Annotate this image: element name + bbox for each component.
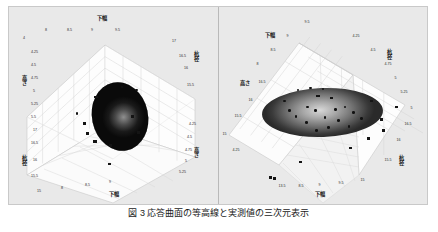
left-tick-lu-3: 5 [33,90,35,94]
right-tick-l-3: 15 [223,133,227,137]
left-tick-bot-2: 8.5 [85,184,90,188]
left-tick-ru-0: 17 [172,40,176,44]
right-top-axis-label: 下幅 [265,33,275,38]
right-circle-marker [305,121,308,124]
panel-left: 下幅 高さ 杭径 杭径 高さ 下幅 4 8 8.5 9 9.5 4.25 4.5… [9,7,219,204]
left-tick-rl-0: 4.25 [189,123,196,127]
right-square-marker [370,100,373,103]
figure-root: 下幅 高さ 杭径 杭径 高さ 下幅 4 8 8.5 9 9.5 4.25 4.5… [0,0,438,232]
left-tick-rl-4: 5.25 [179,171,186,175]
right-square-marker [367,137,370,140]
right-left-axis-label: 高さ [240,81,250,86]
right-square-marker [299,161,302,164]
left-left-axis-label: 高さ [21,75,26,85]
left-tick-bot-3: 9 [109,181,111,185]
left-tick-ru-1: 16.5 [179,55,186,59]
left-bottomright-axis-label: 高さ [193,147,198,157]
right-circle-marker [327,126,330,129]
left-tick-ru-3: 15.5 [187,84,194,88]
right-tick-l-2: 15.5 [235,115,242,119]
right-square-marker [380,118,383,121]
left-tick-top-3: 9 [91,29,93,33]
right-square-marker [330,97,333,100]
right-tick-tr-0: 4.25 [353,35,360,39]
left-tick-top-0: 4 [23,37,25,41]
right-tick-b-2: 9 [319,184,321,188]
right-tick-b-1: 8.5 [299,185,304,189]
right-bottom-axis-label: 下幅 [315,192,325,197]
right-tick-top-3: 8 [257,63,259,67]
right-tick-r-0: 5 [411,107,413,111]
left-tick-bot-1: 8 [61,187,63,191]
figure-frame: 下幅 高さ 杭径 杭径 高さ 下幅 4 8 8.5 9 9.5 4.25 4.5… [8,6,428,205]
left-tick-ll-1: 16.5 [31,142,38,146]
right-circle-marker [315,129,318,132]
left-tick-lu-0: 4.25 [31,51,38,55]
left-tick-ll-3: 15.5 [31,175,38,179]
left-tick-top-2: 8.5 [67,29,72,33]
right-right-axis-label: 杭径 [387,49,392,59]
right-circle-marker [352,111,355,114]
right-square-marker [269,176,272,179]
left-tick-ll-0: 17 [33,129,37,133]
figure-caption: 図 3 応答曲面の等高線と実測値の三次元表示 [0,206,438,219]
right-bottomright-axis-label: 杭径 [399,155,404,165]
right-circle-marker [306,106,309,109]
left-tick-rl-2: 4.75 [185,149,192,153]
right-tick-top-0: 9.5 [305,21,310,25]
right-square-marker [395,106,398,109]
right-circle-marker [283,100,286,103]
left-tick-bot-0: 15 [37,190,41,194]
left-square-marker [108,163,111,166]
right-tick-tr-2: 4.75 [385,63,392,67]
right-tick-l-1: 16 [249,99,253,103]
left-bottomleft-axis-label: 杭径 [21,155,26,165]
left-square-marker [131,115,134,118]
left-tick-ll-2: 16 [33,159,37,163]
right-tick-b-3: 9.5 [339,182,344,186]
right-square-marker [316,95,319,98]
right-circle-marker [360,117,363,120]
right-tick-top-2: 8.5 [271,49,276,53]
right-tick-l-0: 16.5 [259,81,266,85]
left-square-marker [86,132,89,135]
right-tick-r-1: 16.5 [405,123,412,127]
right-circle-marker [334,108,337,111]
right-tick-r-2: 16 [397,139,401,143]
left-tick-lu-1: 4.5 [31,64,36,68]
right-tick-tr-4: 5.25 [401,91,408,95]
left-bottom-axis-label: 下幅 [109,192,119,197]
left-tick-lu-4: 5.25 [31,103,38,107]
left-tick-top-1: 8 [45,29,47,33]
left-tick-lu-2: 4.75 [31,77,38,81]
panel-left-canvas: 下幅 高さ 杭径 杭径 高さ 下幅 4 8 8.5 9 9.5 4.25 4.5… [9,7,218,204]
right-square-marker [273,177,276,180]
right-tick-tr-1: 4.5 [371,49,376,53]
right-square-marker [349,147,352,150]
left-square-marker [83,122,86,125]
panel-right: 下幅 高さ 杭径 杭径 下幅 9.5 9 8.5 8 4.25 4.5 4.75… [219,7,428,204]
left-tick-lu-5: 5.5 [31,116,36,120]
right-circle-marker [337,119,340,122]
right-tick-b-0: 13.5 [279,185,286,189]
left-tick-rl-1: 4.5 [187,136,192,140]
panel-right-canvas: 下幅 高さ 杭径 杭径 下幅 9.5 9 8.5 8 4.25 4.5 4.75… [219,7,428,204]
right-tick-b-4: 15 [361,179,365,183]
right-square-marker [382,129,385,132]
left-tick-ru-2: 16 [184,67,188,71]
left-square-marker [137,131,140,134]
right-tick-r-3: 15.5 [385,159,392,163]
left-square-marker [93,140,96,143]
left-square-marker [94,96,97,99]
left-square-marker [109,144,112,147]
right-circle-marker [295,115,298,118]
left-tick-rl-3: 5 [185,160,187,164]
right-circle-marker [288,109,291,112]
left-right-axis-label: 杭径 [193,51,198,61]
left-tick-top-4: 9.5 [115,29,120,33]
left-top-axis-label: 下幅 [97,16,107,21]
right-tick-l-4: 4.25 [233,149,240,153]
right-tick-tr-3: 5 [395,77,397,81]
right-tick-top-1: 9 [287,35,289,39]
